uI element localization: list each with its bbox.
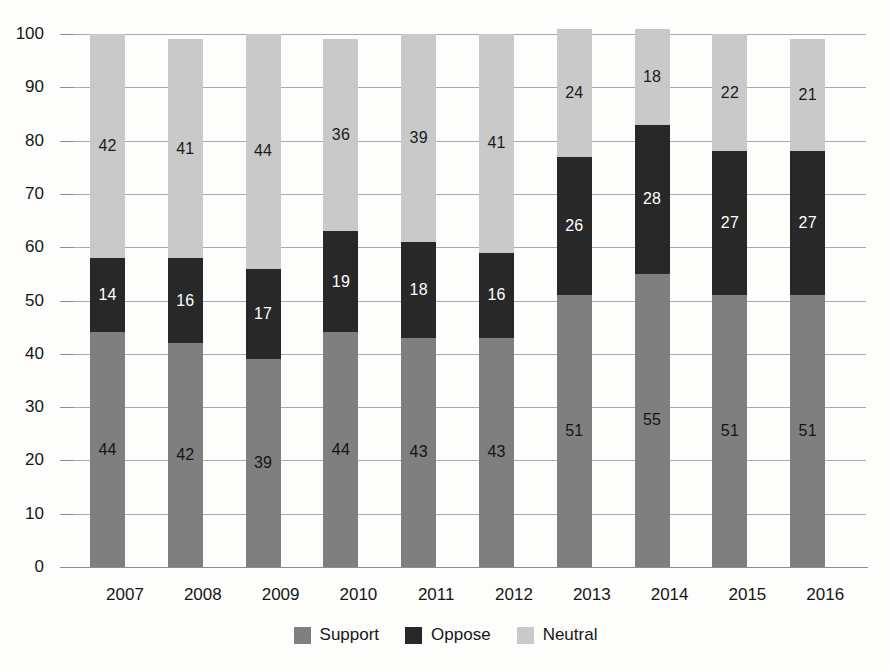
bar-value-label: 26: [565, 218, 583, 234]
y-axis-tick: [60, 247, 74, 248]
y-axis-tick: [60, 141, 74, 142]
bar-value-label: 41: [176, 141, 194, 157]
x-axis-tick-label: 2016: [790, 585, 860, 605]
bar-segment-support[interactable]: 42: [168, 343, 203, 567]
stacked-bar-chart: 4414424216413917444419364318394316415126…: [0, 0, 891, 671]
bar-value-label: 51: [799, 423, 817, 439]
bar-segment-support[interactable]: 51: [712, 295, 747, 567]
bar-segment-oppose[interactable]: 14: [90, 258, 125, 333]
y-axis-tick-label: 100: [0, 24, 44, 44]
bar-segment-support[interactable]: 51: [790, 295, 825, 567]
bar-value-label: 28: [643, 191, 661, 207]
bar-segment-oppose[interactable]: 18: [401, 242, 436, 338]
bar-value-label: 27: [799, 215, 817, 231]
bar-group[interactable]: 441936: [323, 34, 358, 567]
bar-value-label: 36: [332, 127, 350, 143]
bar-value-label: 17: [254, 306, 272, 322]
y-axis-tick-label: 50: [0, 291, 44, 311]
bar-segment-support[interactable]: 43: [401, 338, 436, 567]
bar-group[interactable]: 512722: [712, 34, 747, 567]
bar-segment-support[interactable]: 44: [90, 332, 125, 567]
y-axis-tick: [60, 460, 74, 461]
bar-segment-neutral[interactable]: 42: [90, 34, 125, 258]
y-axis-tick-label: 70: [0, 184, 44, 204]
bar-value-label: 18: [643, 69, 661, 85]
bar-segment-neutral[interactable]: 36: [323, 39, 358, 231]
bar-group[interactable]: 512721: [790, 34, 825, 567]
legend-item-neutral[interactable]: Neutral: [517, 625, 598, 645]
bar-segment-oppose[interactable]: 16: [168, 258, 203, 343]
y-axis-tick: [60, 34, 74, 35]
plot-area: 4414424216413917444419364318394316415126…: [68, 34, 866, 567]
bar-segment-oppose[interactable]: 26: [557, 157, 592, 296]
y-axis-tick: [60, 354, 74, 355]
legend-swatch-neutral: [517, 627, 534, 644]
bar-segment-neutral[interactable]: 41: [479, 34, 514, 253]
bar-segment-neutral[interactable]: 21: [790, 39, 825, 151]
bar-value-label: 44: [98, 442, 116, 458]
legend-swatch-oppose: [405, 627, 422, 644]
x-axis-tick-label: 2012: [479, 585, 549, 605]
legend-item-oppose[interactable]: Oppose: [405, 625, 491, 645]
bar-value-label: 21: [799, 87, 817, 103]
bar-segment-oppose[interactable]: 27: [712, 151, 747, 295]
x-axis-tick-label: 2015: [712, 585, 782, 605]
bar-group[interactable]: 431641: [479, 34, 514, 567]
y-axis-tick: [60, 407, 74, 408]
legend-label: Support: [320, 625, 380, 645]
bar-value-label: 18: [410, 282, 428, 298]
legend-label: Neutral: [543, 625, 598, 645]
x-axis-tick-label: 2013: [557, 585, 627, 605]
bar-segment-neutral[interactable]: 44: [246, 34, 281, 269]
x-axis-tick-label: 2009: [246, 585, 316, 605]
x-axis-tick-label: 2007: [90, 585, 160, 605]
bar-value-label: 55: [643, 412, 661, 428]
bar-value-label: 39: [410, 130, 428, 146]
bar-segment-neutral[interactable]: 22: [712, 34, 747, 151]
bar-value-label: 51: [565, 423, 583, 439]
bar-value-label: 24: [565, 85, 583, 101]
x-axis-tick-labels: 2007200820092010201120122013201420152016: [68, 567, 866, 607]
bar-segment-support[interactable]: 51: [557, 295, 592, 567]
x-axis-tick-label: 2008: [168, 585, 238, 605]
bar-value-label: 16: [487, 287, 505, 303]
bar-value-label: 16: [176, 293, 194, 309]
bar-segment-neutral[interactable]: 41: [168, 39, 203, 258]
bar-value-label: 14: [98, 287, 116, 303]
bar-segment-oppose[interactable]: 28: [635, 125, 670, 274]
bar-segment-support[interactable]: 43: [479, 338, 514, 567]
y-axis-tick-label: 80: [0, 131, 44, 151]
bar-segment-oppose[interactable]: 27: [790, 151, 825, 295]
bar-segment-support[interactable]: 39: [246, 359, 281, 567]
bar-value-label: 19: [332, 274, 350, 290]
bar-group[interactable]: 391744: [246, 34, 281, 567]
bar-segment-oppose[interactable]: 16: [479, 253, 514, 338]
bar-value-label: 51: [721, 423, 739, 439]
x-axis-tick-label: 2014: [635, 585, 705, 605]
y-axis-tick-label: 90: [0, 77, 44, 97]
bar-segment-neutral[interactable]: 39: [401, 34, 436, 242]
bar-segment-oppose[interactable]: 19: [323, 231, 358, 332]
bar-value-label: 41: [487, 135, 505, 151]
bar-group[interactable]: 441442: [90, 34, 125, 567]
y-axis-tick-label: 40: [0, 344, 44, 364]
x-axis-tick-label: 2011: [401, 585, 471, 605]
y-axis-tick-label: 0: [0, 557, 44, 577]
bar-segment-support[interactable]: 44: [323, 332, 358, 567]
legend-item-support[interactable]: Support: [294, 625, 380, 645]
bar-segment-neutral[interactable]: 24: [557, 29, 592, 157]
bar-segment-support[interactable]: 55: [635, 274, 670, 567]
bar-segment-oppose[interactable]: 17: [246, 269, 281, 360]
bar-group[interactable]: 421641: [168, 34, 203, 567]
bar-group[interactable]: 431839: [401, 34, 436, 567]
y-axis-tick: [60, 87, 74, 88]
bar-segment-neutral[interactable]: 18: [635, 29, 670, 125]
y-axis-tick: [60, 194, 74, 195]
legend-label: Oppose: [431, 625, 491, 645]
bar-value-label: 43: [487, 444, 505, 460]
bar-value-label: 44: [254, 143, 272, 159]
bar-group[interactable]: 552818: [635, 34, 670, 567]
bar-value-label: 22: [721, 85, 739, 101]
bar-group[interactable]: 512624: [557, 34, 592, 567]
bar-value-label: 44: [332, 442, 350, 458]
